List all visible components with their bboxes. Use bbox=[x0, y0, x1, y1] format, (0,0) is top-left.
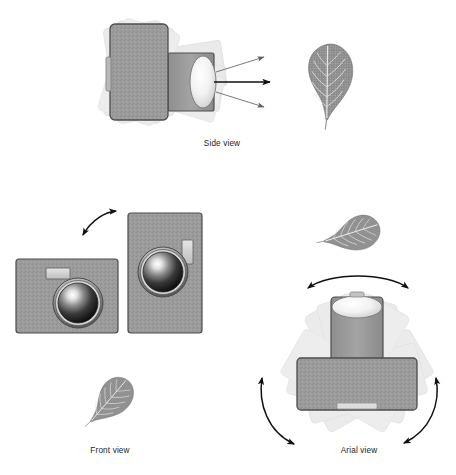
landscape-flash bbox=[46, 268, 70, 279]
arial-camera-body bbox=[297, 358, 417, 410]
camera-front-landscape bbox=[16, 259, 118, 333]
arial-hotshoe bbox=[350, 292, 364, 297]
arial-lens-glass bbox=[332, 296, 382, 318]
caption-side-view: Side view bbox=[204, 139, 240, 148]
arial-viewfinder-strip bbox=[337, 403, 377, 409]
caption-front-view: Front view bbox=[90, 446, 129, 455]
landscape-lens-glass bbox=[58, 283, 98, 323]
side-camera-body bbox=[110, 24, 168, 120]
figure-root: Side view Front view bbox=[0, 0, 456, 475]
camera-front-portrait bbox=[128, 213, 202, 333]
caption-arial-view: Arial view bbox=[341, 446, 378, 455]
camera-orientation-diagram: Side view Front view bbox=[0, 0, 456, 475]
side-camera-grip bbox=[106, 57, 111, 91]
side-lens-glass bbox=[190, 56, 216, 108]
portrait-lens-glass bbox=[143, 252, 183, 292]
